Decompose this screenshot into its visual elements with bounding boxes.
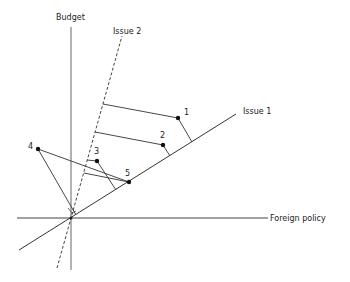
point-3	[95, 159, 99, 163]
point-1	[176, 116, 180, 120]
origin	[70, 217, 73, 220]
point-5	[127, 180, 131, 184]
projection-3-issue1	[97, 161, 116, 190]
point-2	[161, 143, 165, 147]
issue2-axis	[57, 36, 122, 268]
projection-1-issue1	[178, 118, 192, 142]
point-4	[36, 147, 40, 151]
projection-4-issue2	[38, 149, 129, 182]
point-5-label: 5	[125, 169, 130, 178]
issue1-label: Issue 1	[243, 107, 271, 116]
point-2-label: 2	[160, 131, 165, 140]
projection-4-issue1	[38, 149, 76, 215]
point-3-label: 3	[94, 147, 99, 156]
issue2-label: Issue 2	[113, 27, 141, 36]
point-1-label: 1	[184, 108, 189, 117]
projection-2-issue2	[95, 132, 163, 145]
spatial-voting-diagram: 1 2 3 4 5 Budget Issue 2 Issue 1 Foreign…	[0, 0, 350, 282]
projection-1-issue2	[103, 104, 178, 118]
point-4-label: 4	[28, 142, 33, 151]
projection-5-issue2	[84, 173, 129, 182]
budget-axis-label: Budget	[56, 13, 85, 22]
foreign-policy-label: Foreign policy	[270, 214, 326, 223]
